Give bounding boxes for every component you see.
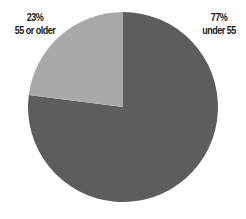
label-55-or-older-text: 55 or older — [10, 24, 59, 37]
label-under-55-text: under 55 — [196, 24, 242, 37]
pie-chart: 23% 55 or older 77% under 55 — [0, 0, 246, 219]
label-under-55-percent: 77% — [196, 11, 242, 24]
label-55-or-older: 23% 55 or older — [10, 11, 59, 37]
label-55-or-older-percent: 23% — [10, 11, 59, 24]
label-under-55: 77% under 55 — [196, 11, 242, 37]
